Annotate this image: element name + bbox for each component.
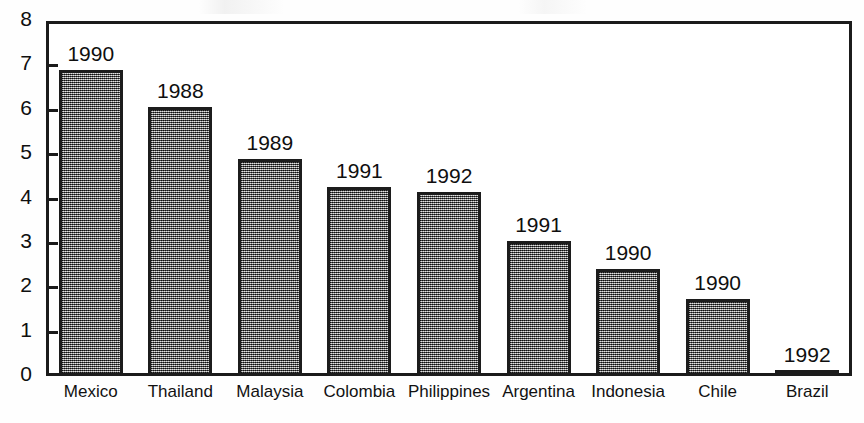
bar[interactable] [507, 241, 571, 376]
bar[interactable] [59, 70, 123, 376]
bar[interactable] [596, 269, 660, 376]
bar[interactable] [775, 370, 839, 376]
bar-year-label: 1990 [37, 43, 145, 64]
y-axis-tick-label: 7 [2, 52, 32, 73]
y-axis-tick-label: 6 [2, 97, 32, 118]
y-axis-tick-label: 3 [2, 230, 32, 251]
bar[interactable] [238, 159, 302, 376]
x-axis-category-label: Colombia [315, 382, 405, 402]
bar-slot: 1990 [59, 21, 123, 376]
bar[interactable] [686, 299, 750, 376]
bar-slot: 1991 [507, 21, 571, 376]
bar[interactable] [148, 107, 212, 376]
x-axis-category-label: Brazil [762, 382, 852, 402]
x-axis: MexicoThailandMalaysiaColombiaPhilippine… [46, 382, 852, 414]
bar-year-label: 1992 [395, 165, 503, 186]
x-axis-category-label: Mexico [46, 382, 136, 402]
bar-slot: 1991 [327, 21, 391, 376]
bar-year-label: 1990 [664, 272, 772, 293]
y-axis-tick-label: 0 [2, 363, 32, 384]
x-axis-category-label: Argentina [494, 382, 584, 402]
bar-slot: 1990 [596, 21, 660, 376]
x-axis-category-label: Thailand [136, 382, 226, 402]
bar-chart-figure: 012345678 199019881989199119921991199019… [0, 0, 864, 423]
bar-year-label: 1990 [574, 242, 682, 263]
x-axis-category-label: Indonesia [583, 382, 673, 402]
bar-slot: 1988 [148, 21, 212, 376]
y-axis-tick-label: 2 [2, 274, 32, 295]
bar-year-label: 1991 [485, 214, 593, 235]
bars-layer: 199019881989199119921991199019901992 [46, 21, 852, 376]
bar[interactable] [417, 192, 481, 376]
bar-slot: 1992 [775, 21, 839, 376]
bar[interactable] [327, 187, 391, 376]
bar-year-label: 1992 [753, 344, 861, 365]
y-axis-tick-label: 5 [2, 141, 32, 162]
bar-slot: 1992 [417, 21, 481, 376]
y-axis-tick-label: 8 [2, 8, 32, 29]
x-axis-category-label: Philippines [404, 382, 494, 402]
y-axis-tick-label: 1 [2, 319, 32, 340]
x-axis-category-label: Malaysia [225, 382, 315, 402]
bar-year-label: 1988 [126, 80, 234, 101]
x-axis-category-label: Chile [673, 382, 763, 402]
bar-slot: 1989 [238, 21, 302, 376]
bar-year-label: 1989 [216, 132, 324, 153]
y-axis-tick-label: 4 [2, 186, 32, 207]
scan-artifact [0, 0, 864, 14]
bar-slot: 1990 [686, 21, 750, 376]
